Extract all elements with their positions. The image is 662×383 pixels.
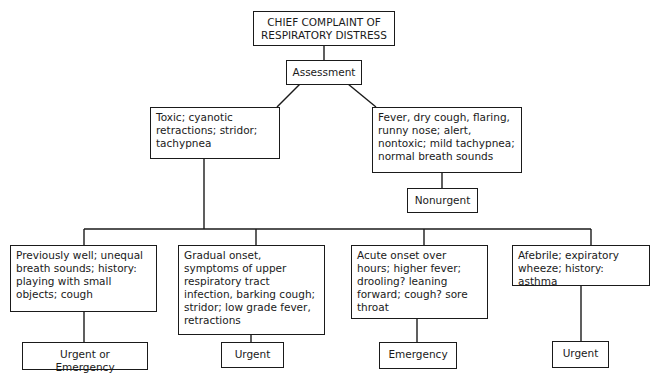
subtype-text: Acute onset over hours; higher fever; dr… (357, 249, 482, 314)
assessment-node: Assessment (286, 60, 362, 85)
subtype-node-asthma: Afebrile; expiratory wheeze; history: as… (512, 245, 650, 286)
outcome-node-urgent-or-emergency: Urgent or Emergency (22, 342, 148, 370)
nonurgent-outcome-label: Nonurgent (414, 194, 471, 207)
subtype-text: Afebrile; expiratory wheeze; history: as… (518, 249, 644, 288)
root-title-line2: RESPIRATORY DISTRESS (258, 29, 390, 42)
outcome-label: Urgent (228, 348, 277, 361)
outcome-node-urgent: Urgent (221, 342, 284, 368)
root-node: CHIEF COMPLAINT OF RESPIRATORY DISTRESS (253, 11, 395, 46)
subtype-node-epiglottitis: Acute onset over hours; higher fever; dr… (351, 245, 488, 319)
nontoxic-branch-text: Fever, dry cough, flaring, runny nose; a… (378, 111, 516, 163)
subtype-node-foreign-body: Previously well; unequal breath sounds; … (10, 245, 157, 312)
assessment-label: Assessment (291, 66, 357, 79)
subtype-text: Gradual onset, symptoms of upper respira… (184, 249, 319, 327)
outcome-label: Emergency (386, 348, 450, 361)
outcome-node-emergency: Emergency (379, 342, 457, 369)
connector-assessment-nontoxic (348, 84, 376, 107)
respiratory-distress-flowchart: CHIEF COMPLAINT OF RESPIRATORY DISTRESS … (0, 0, 662, 383)
nontoxic-branch-node: Fever, dry cough, flaring, runny nose; a… (372, 107, 522, 173)
subtype-text: Previously well; unequal breath sounds; … (16, 249, 151, 301)
nonurgent-outcome-node: Nonurgent (407, 188, 478, 213)
outcome-label: Urgent (559, 347, 602, 360)
toxic-branch-node: Toxic; cyanotic retractions; stridor; ta… (150, 107, 280, 159)
connector-assessment-toxic (277, 84, 300, 107)
outcome-node-urgent-asthma: Urgent (552, 341, 609, 368)
subtype-node-croup: Gradual onset, symptoms of upper respira… (178, 245, 325, 335)
outcome-label: Urgent or Emergency (29, 348, 141, 374)
root-title-line1: CHIEF COMPLAINT OF (258, 16, 390, 29)
toxic-branch-text: Toxic; cyanotic retractions; stridor; ta… (156, 111, 274, 150)
connector-lines (0, 0, 662, 383)
